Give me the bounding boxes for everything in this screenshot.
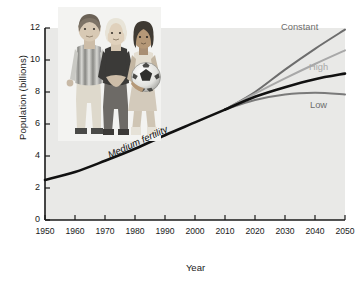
photo-three-children-with-soccer-ball	[58, 7, 161, 141]
x-tick-label: 2050	[325, 226, 359, 236]
series-label-constant: Constant	[281, 22, 318, 32]
y-tick-label: 4	[14, 150, 40, 160]
y-tick-label: 6	[14, 118, 40, 128]
y-tick-label: 12	[14, 22, 40, 32]
series-label-high: High	[309, 62, 328, 72]
x-axis-title-text: Year	[186, 262, 205, 273]
population-projection-chart: Population (billions) Year 024681012 195…	[0, 0, 359, 283]
series-label-low: Low	[310, 100, 327, 110]
plot-canvas	[0, 0, 359, 283]
y-tick-label: 0	[14, 214, 40, 224]
y-tick-label: 10	[14, 54, 40, 64]
y-tick-label: 2	[14, 182, 40, 192]
y-tick-label: 8	[14, 86, 40, 96]
x-axis-title: Year	[0, 262, 359, 273]
